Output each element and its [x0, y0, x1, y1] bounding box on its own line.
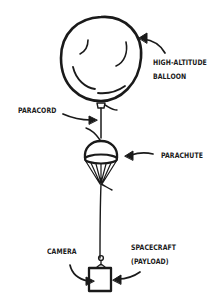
parachute-arrow-icon — [125, 151, 153, 160]
spacecraft-arrow-icon — [113, 272, 140, 284]
parachute-icon — [85, 141, 117, 190]
spacecraft-box-icon — [89, 256, 111, 291]
balloon-label-line2: BALLOON — [153, 72, 186, 81]
spacecraft-label-line1: SPACECRAFT — [131, 243, 176, 252]
balloon-icon — [61, 17, 141, 110]
camera-label: CAMERA — [47, 247, 77, 256]
spacecraft-label-line2: (PAYLOAD) — [131, 257, 169, 266]
paracord-line — [86, 108, 101, 140]
balloon-arrow-icon — [139, 33, 165, 53]
balloon-label-line1: HIGH-ALTITUDE — [153, 58, 207, 67]
balloon-diagram: HIGH-ALTITUDE BALLOON PARACORD PARACHUTE… — [0, 0, 223, 306]
parachute-label: PARACHUTE — [161, 151, 203, 160]
paracord-arrow-icon — [63, 114, 97, 124]
paracord-label: PARACORD — [18, 106, 56, 115]
tether-line — [100, 184, 101, 258]
